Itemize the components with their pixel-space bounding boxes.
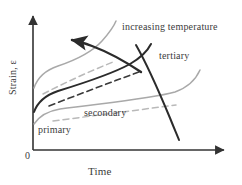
label-increasing-temperature: increasing temperature	[122, 21, 218, 32]
label-secondary: secondary	[84, 107, 126, 118]
creep-curve-figure: increasing temperature tertiary secondar…	[0, 0, 242, 185]
creep-curve-mid-temperature	[34, 44, 151, 112]
axis-origin-label: 0	[25, 150, 30, 161]
x-axis-label: Time	[88, 165, 112, 177]
label-primary: primary	[38, 124, 71, 135]
y-axis-label: Strain, ε	[7, 48, 18, 108]
tangent-line-top	[43, 62, 113, 94]
label-tertiary: tertiary	[159, 50, 189, 61]
